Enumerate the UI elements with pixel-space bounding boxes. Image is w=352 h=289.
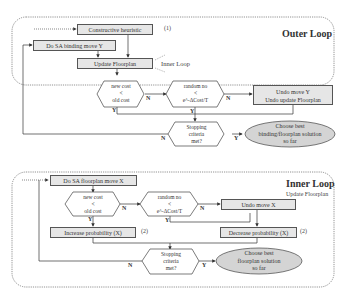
outer-undo-box: Undo move Y Undo update Floorplan	[253, 85, 333, 105]
outer-stop-text: Stopping criteria met?	[170, 124, 223, 145]
inner-cost-n: N	[122, 205, 126, 211]
outer-cost-text: new cost < old cost	[98, 83, 144, 104]
flowchart-diagram: Outer Loop Constructive heuristic (1) Do…	[0, 0, 352, 289]
inner-random-text: random no < e^-ΔCost/T	[142, 194, 197, 215]
outer-stop-n: N	[161, 135, 165, 141]
inner-loop-label: Inner Loop	[161, 60, 190, 67]
decrease-note: (2)	[300, 228, 307, 234]
outer-stop-y: Y	[234, 135, 238, 141]
constructive-note: (1)	[164, 25, 171, 31]
outer-random-n: N	[226, 95, 230, 101]
do-sa-floorplan-box: Do SA floorplan move X	[50, 175, 137, 186]
inner-random-n: N	[200, 205, 204, 211]
inner-undo-box: Undo move X	[221, 199, 296, 210]
inner-cost-text: new cost < old cost	[67, 194, 119, 215]
update-floorplan-box: Update Floorplan	[77, 58, 153, 69]
inner-loop-subtitle: Update Floorplan	[286, 191, 328, 197]
inner-cost-y: Y	[88, 216, 92, 222]
outer-cost-n: N	[146, 95, 150, 101]
increase-note: (2)	[141, 228, 148, 234]
outer-cost-y: Y	[112, 107, 116, 113]
inner-loop-title: Inner Loop	[286, 178, 334, 189]
outer-choose-text: Choose best binding/floorplan solution s…	[246, 123, 334, 146]
increase-probability-box: Increase probability (X)	[50, 227, 136, 238]
inner-random-y: Y	[165, 217, 169, 223]
do-sa-binding-box: Do SA binding move Y	[33, 40, 116, 51]
inner-stop-y: Y	[202, 262, 206, 268]
decrease-probability-box: Decrease probability (X)	[220, 227, 297, 238]
inner-stop-text: Stopping criteria met?	[144, 251, 198, 272]
outer-random-text: random no < e^-ΔCost/T	[168, 83, 223, 104]
outer-random-y: Y	[190, 108, 194, 114]
outer-loop-title: Outer Loop	[282, 28, 332, 39]
constructive-heuristic-box: Constructive heuristic	[77, 24, 153, 35]
inner-stop-n: N	[128, 262, 132, 268]
inner-choose-text: Choose best floorplan solution so far	[218, 250, 300, 273]
